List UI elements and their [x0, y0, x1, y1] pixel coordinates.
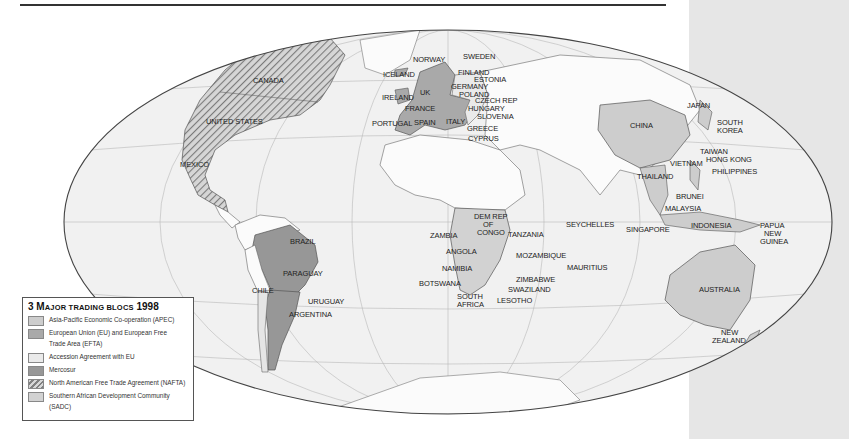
legend-title-rest: AJOR TRADING BLOCS	[45, 303, 134, 312]
legend-item-eu-efta: European Union (EU) and European Free Tr…	[28, 328, 188, 350]
legend-item-apec: Asia-Pacific Economic Co-operation (APEC…	[28, 315, 188, 326]
legend-label: European Union (EU) and European Free Tr…	[49, 328, 167, 349]
label-united-states: UNITED STATES	[206, 117, 263, 126]
legend-title-year: 1998	[137, 301, 159, 312]
legend-title: 3 MAJOR TRADING BLOCS 1998	[28, 301, 188, 312]
label-swaziland: SWAZILAND	[508, 285, 551, 294]
nafta-hatch-swatch	[28, 379, 44, 389]
label-indonesia: INDONESIA	[691, 221, 731, 230]
label-portugal: PORTUGAL	[372, 119, 412, 128]
label-paraguay: PARAGUAY	[283, 269, 323, 278]
label-mauritius: MAURITIUS	[567, 263, 607, 272]
label-thailand: THAILAND	[637, 172, 674, 181]
label-singapore: SINGAPORE	[626, 225, 670, 234]
legend-label: Mercosur	[49, 365, 76, 376]
label-chile: CHILE	[252, 286, 274, 295]
label-zambia: ZAMBIA	[430, 231, 457, 240]
label-argentina: ARGENTINA	[289, 310, 332, 319]
label-spain: SPAIN	[414, 118, 435, 127]
label-brunei: BRUNEI	[676, 192, 704, 201]
label-ireland: IRELAND	[382, 93, 414, 102]
label-vietnam: VIETNAM	[670, 159, 703, 168]
label-philippines: PHILIPPINES	[712, 167, 757, 176]
label-south-africa-2: AFRICA	[457, 300, 484, 309]
label-sweden: SWEDEN	[463, 52, 495, 61]
legend-label: Accession Agreement with EU	[49, 352, 135, 363]
label-canada: CANADA	[253, 76, 284, 85]
mercosur-swatch	[28, 366, 44, 376]
label-norway: NORWAY	[413, 55, 445, 64]
label-france: FRANCE	[405, 104, 435, 113]
label-iceland: ICELAND	[383, 70, 415, 79]
legend-title-first-letter: M	[36, 301, 44, 312]
legend-label: North American Free Trade Agreement (NAF…	[49, 378, 185, 389]
label-new-zealand-2: ZEALAND	[712, 336, 747, 345]
legend-item-nafta: North American Free Trade Agreement (NAF…	[28, 378, 188, 389]
label-greece: GREECE	[467, 124, 498, 133]
legend-item-accession: Accession Agreement with EU	[28, 352, 188, 363]
legend-label: Asia-Pacific Economic Co-operation (APEC…	[49, 315, 174, 326]
apec-swatch	[28, 316, 44, 326]
label-angola: ANGOLA	[446, 247, 477, 256]
label-tanzania: TANZANIA	[508, 230, 544, 239]
label-australia: AUSTRALIA	[699, 285, 740, 294]
label-dem-rep-congo-congo: CONGO	[477, 228, 505, 237]
legend-item-mercosur: Mercosur	[28, 365, 188, 376]
label-uruguay: URUGUAY	[308, 297, 344, 306]
label-china: CHINA	[630, 121, 653, 130]
label-cyprus: CYPRUS	[468, 134, 499, 143]
legend-title-number: 3	[28, 301, 34, 312]
label-uk: UK	[420, 88, 430, 97]
eu-efta-swatch	[28, 329, 44, 339]
label-brazil: BRAZIL	[290, 237, 316, 246]
label-lesotho: LESOTHO	[497, 296, 532, 305]
label-zimbabwe: ZIMBABWE	[516, 275, 555, 284]
legend-item-sadc: Southern African Development Community (…	[28, 391, 188, 402]
legend: 3 MAJOR TRADING BLOCS 1998 Asia-Pacific …	[22, 297, 194, 421]
label-namibia: NAMIBIA	[442, 264, 472, 273]
legend-label-line2: Trade Area (EFTA)	[49, 340, 102, 347]
label-slovenia: SLOVENIA	[477, 112, 514, 121]
label-mexico: MEXICO	[180, 160, 209, 169]
accession-swatch	[28, 353, 44, 363]
label-malaysia: MALAYSIA	[665, 204, 701, 213]
label-mozambique: MOZAMBIQUE	[516, 251, 566, 260]
label-botswana: BOTSWANA	[419, 279, 461, 288]
legend-label: Southern African Development Community (…	[49, 391, 188, 412]
label-hong-kong: HONG KONG	[706, 155, 752, 164]
sadc-swatch	[28, 392, 44, 402]
label-papua-3: GUINEA	[760, 237, 788, 246]
label-south-korea-2: KOREA	[717, 126, 743, 135]
label-seychelles: SEYCHELLES	[566, 220, 614, 229]
legend-label-line1: European Union (EU) and European Free	[49, 329, 167, 336]
label-italy: ITALY	[446, 117, 465, 126]
label-japan: JAPAN	[687, 101, 710, 110]
